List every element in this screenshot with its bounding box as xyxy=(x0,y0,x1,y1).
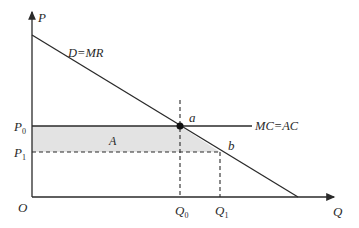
point-a-marker xyxy=(177,123,184,130)
origin-label: O xyxy=(18,200,28,215)
region-a-label: A xyxy=(108,134,117,148)
x-axis-label: Q xyxy=(333,204,343,219)
p0-label: P0 xyxy=(13,119,26,136)
p1-label: P1 xyxy=(13,145,26,162)
q1-label: Q1 xyxy=(215,203,228,220)
diagram-canvas: P Q O D=MR MC=AC P0 P1 Q0 Q1 a b A xyxy=(0,0,359,228)
demand-label: D=MR xyxy=(67,46,104,60)
q0-label: Q0 xyxy=(175,203,188,220)
point-a-label: a xyxy=(189,110,196,125)
y-axis-label: P xyxy=(37,10,46,25)
shaded-area-a xyxy=(32,126,220,152)
mc-ac-label: MC=AC xyxy=(254,119,299,133)
point-b-label: b xyxy=(228,138,235,153)
